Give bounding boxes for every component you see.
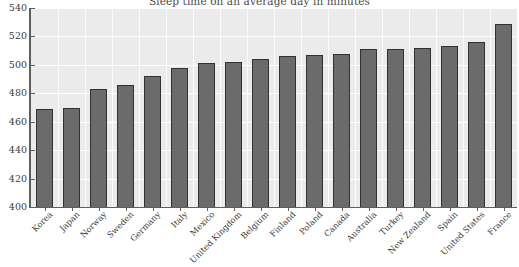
bar[interactable] [495, 24, 512, 207]
plot-area [31, 8, 517, 207]
bar[interactable] [198, 63, 215, 207]
bar[interactable] [225, 62, 242, 207]
y-axis-tick-labels: 400420440460480500520540 [0, 0, 27, 267]
bar[interactable] [441, 46, 458, 207]
bar[interactable] [36, 109, 53, 207]
y-axis-tick-mark [31, 65, 35, 66]
y-axis-tick-label: 480 [1, 88, 27, 98]
bar[interactable] [90, 89, 107, 207]
y-axis-tick-label: 540 [1, 3, 27, 13]
x-axis-tick-label: Japan [58, 210, 81, 233]
y-axis-tick-label: 440 [1, 145, 27, 155]
x-axis-tick-label: Belgium [239, 210, 270, 241]
y-axis-tick-mark [31, 93, 35, 94]
x-axis-tick-labels: KoreaJapanNorwaySwedenGermanyItalyMexico… [31, 208, 517, 267]
bar[interactable] [360, 49, 377, 207]
bars-layer [31, 8, 517, 207]
y-axis-tick-label: 500 [1, 60, 27, 70]
bar[interactable] [252, 59, 269, 207]
bar[interactable] [117, 85, 134, 207]
y-axis-tick-label: 460 [1, 117, 27, 127]
bar[interactable] [171, 68, 188, 207]
bar[interactable] [63, 108, 80, 208]
y-axis-tick-mark [31, 36, 35, 37]
x-axis-tick-label: Italy [169, 210, 188, 229]
bar[interactable] [279, 56, 296, 207]
bar[interactable] [414, 48, 431, 207]
y-axis-tick-label: 520 [1, 31, 27, 41]
bar[interactable] [144, 76, 161, 207]
x-axis-tick-label: Poland [297, 210, 323, 236]
y-axis-tick-mark [31, 179, 35, 180]
bar[interactable] [333, 54, 350, 208]
x-axis-tick-label: Spain [436, 210, 459, 233]
x-axis-tick-label: France [486, 210, 513, 237]
bar-chart: Sleep time on an average day in minutes … [0, 0, 519, 267]
x-axis-tick-label: Finland [268, 210, 297, 239]
y-axis-tick-mark [31, 8, 35, 9]
y-axis-tick-mark [31, 150, 35, 151]
x-axis-tick-label: Norway [78, 210, 107, 239]
chart-title: Sleep time on an average day in minutes [0, 0, 519, 7]
y-axis-tick-label: 420 [1, 174, 27, 184]
y-axis-tick-mark [31, 122, 35, 123]
x-axis-tick-label: United Kingdom [188, 210, 243, 265]
y-axis-tick-label: 400 [1, 202, 27, 212]
bar[interactable] [387, 49, 404, 207]
bar[interactable] [306, 55, 323, 207]
x-axis-tick-label: Korea [30, 210, 53, 233]
bar[interactable] [468, 42, 485, 207]
